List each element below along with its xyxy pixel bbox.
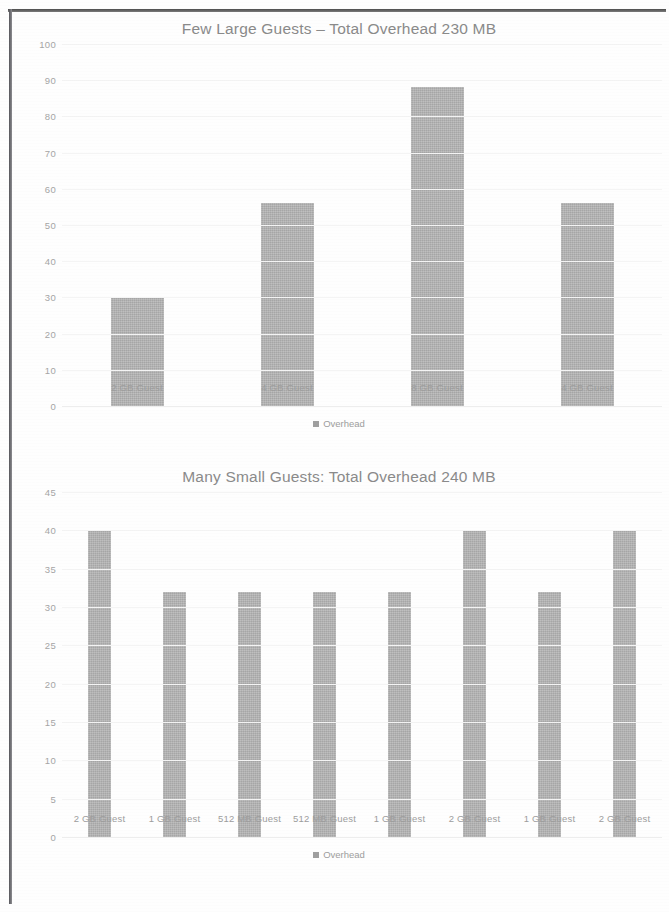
legend-swatch-icon [313, 421, 319, 427]
chart-title-many-small-guests: Many Small Guests: Total Overhead 240 MB [14, 462, 664, 486]
bar-slot [362, 492, 437, 837]
bar-slot [512, 492, 587, 837]
gridline [62, 153, 662, 154]
gridline [62, 297, 662, 298]
y-axis-tick-label: 90 [45, 75, 56, 86]
gridline [62, 261, 662, 262]
y-axis-tick-label: 40 [45, 256, 56, 267]
y-axis-tick-label: 70 [45, 147, 56, 158]
x-axis-tick-label: 1 GB Guest [512, 813, 587, 824]
y-axis-few-large-guests: 1009080706050403020100 [14, 44, 62, 406]
gridline [62, 370, 662, 371]
x-axis-tick-label: 2 GB Guest [437, 813, 512, 824]
bar-slot [137, 492, 212, 837]
bar-overhead [411, 87, 464, 406]
y-axis-tick-label: 20 [45, 678, 56, 689]
gridline [62, 530, 662, 531]
bar-overhead [388, 592, 411, 837]
gridline [62, 116, 662, 117]
bar-slot [587, 492, 662, 837]
x-axis-tick-label: 4 GB Guest [512, 382, 662, 393]
bar-slot [212, 492, 287, 837]
gridline [62, 406, 662, 407]
gridline [62, 569, 662, 570]
y-axis-tick-label: 10 [45, 364, 56, 375]
x-axis-tick-label: 8 GB Guest [362, 382, 512, 393]
y-axis-tick-label: 35 [45, 563, 56, 574]
gridline [62, 799, 662, 800]
x-axis-tick-label: 4 GB Guest [212, 382, 362, 393]
plot-area-few-large-guests: 1009080706050403020100 [14, 44, 664, 406]
bar-slot [437, 492, 512, 837]
legend-many-small-guests: Overhead [14, 849, 664, 860]
gridline [62, 80, 662, 81]
y-axis-tick-label: 5 [50, 793, 56, 804]
gridline [62, 645, 662, 646]
gridline [62, 189, 662, 190]
page-frame-left-rule [9, 9, 12, 904]
legend-label-overhead: Overhead [323, 418, 365, 429]
y-axis-tick-label: 15 [45, 717, 56, 728]
bar-overhead [538, 592, 561, 837]
chart-title-few-large-guests: Few Large Guests – Total Overhead 230 MB [14, 14, 664, 38]
y-axis-tick-label: 30 [45, 292, 56, 303]
legend-swatch-icon [313, 852, 319, 858]
x-axis-tick-label: 512 MB Guest [212, 813, 287, 824]
page-frame-top-rule [8, 9, 666, 12]
bar-overhead [313, 592, 336, 837]
y-axis-many-small-guests: 454035302520151050 [14, 492, 62, 837]
y-axis-tick-label: 50 [45, 220, 56, 231]
gridline [62, 837, 662, 838]
y-axis-tick-label: 20 [45, 328, 56, 339]
y-axis-tick-label: 60 [45, 183, 56, 194]
bar-slot [62, 492, 137, 837]
x-axis-labels-few-large-guests: 2 GB Guest4 GB Guest8 GB Guest4 GB Guest [62, 382, 662, 393]
y-axis-tick-label: 25 [45, 640, 56, 651]
plot-area-many-small-guests: 454035302520151050 [14, 492, 664, 837]
bar-overhead [261, 203, 314, 406]
y-axis-tick-label: 45 [45, 487, 56, 498]
bar-overhead [561, 203, 614, 406]
gridline [62, 722, 662, 723]
legend-few-large-guests: Overhead [14, 418, 664, 429]
bar-overhead [238, 592, 261, 837]
bar-overhead [163, 592, 186, 837]
gridline [62, 607, 662, 608]
y-axis-tick-label: 0 [50, 401, 56, 412]
x-axis-tick-label: 2 GB Guest [62, 813, 137, 824]
y-axis-tick-label: 30 [45, 602, 56, 613]
x-axis-labels-many-small-guests: 2 GB Guest1 GB Guest512 MB Guest512 MB G… [62, 813, 662, 824]
y-axis-tick-label: 40 [45, 525, 56, 536]
y-axis-tick-label: 100 [39, 39, 56, 50]
legend-label-overhead: Overhead [323, 849, 365, 860]
gridline [62, 492, 662, 493]
document-page: Few Large Guests – Total Overhead 230 MB… [0, 0, 669, 912]
y-axis-tick-label: 10 [45, 755, 56, 766]
x-axis-tick-label: 1 GB Guest [362, 813, 437, 824]
gridline [62, 760, 662, 761]
x-axis-tick-label: 512 MB Guest [287, 813, 362, 824]
x-axis-tick-label: 2 GB Guest [587, 813, 662, 824]
y-axis-tick-label: 80 [45, 111, 56, 122]
x-axis-tick-label: 1 GB Guest [137, 813, 212, 824]
chart-few-large-guests: Few Large Guests – Total Overhead 230 MB… [14, 14, 664, 454]
y-axis-tick-label: 0 [50, 832, 56, 843]
gridline [62, 225, 662, 226]
gridline [62, 334, 662, 335]
bars-container-many-small-guests [62, 492, 662, 837]
gridline [62, 684, 662, 685]
chart-many-small-guests: Many Small Guests: Total Overhead 240 MB… [14, 462, 664, 910]
x-axis-tick-label: 2 GB Guest [62, 382, 212, 393]
gridline [62, 44, 662, 45]
bar-slot [287, 492, 362, 837]
